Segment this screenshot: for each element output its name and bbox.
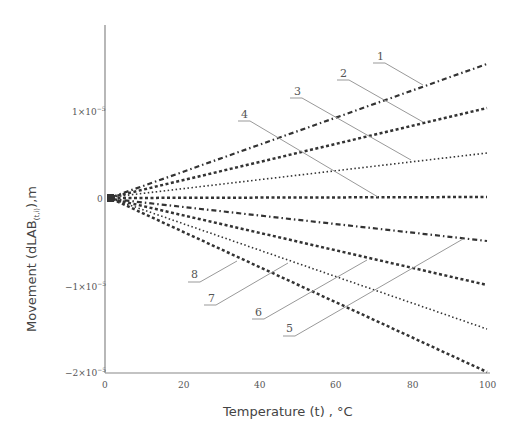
series-6-line [112, 199, 487, 285]
series-label-3: 3 [294, 85, 301, 98]
series-8-line [112, 199, 487, 372]
x-tick-80: 80 [407, 380, 419, 390]
series-label-7: 7 [208, 292, 215, 305]
series-7-line [112, 199, 487, 329]
origin-marker [107, 194, 114, 202]
series-label-6: 6 [255, 306, 262, 319]
series-label-8: 8 [191, 268, 198, 281]
series-label-5: 5 [286, 322, 293, 335]
x-tick-0: 0 [102, 380, 108, 390]
series-5-line [112, 199, 487, 241]
x-tick-40: 40 [254, 380, 266, 390]
y-tick-0: 0 [97, 194, 103, 204]
series-label-1: 1 [377, 50, 384, 63]
y-tick-m2e-5: −2×10−5 [65, 366, 106, 378]
x-axis-title: Temperature (t) , °C [222, 404, 353, 419]
series-1-line [112, 64, 487, 197]
x-tick-20: 20 [178, 380, 190, 390]
series-4-line [112, 197, 487, 198]
series-3-line [112, 153, 487, 197]
y-tick-m1e-5: −1×10−5 [65, 280, 106, 292]
y-tick-1e-5: 1×10−5 [72, 105, 106, 117]
x-tick-60: 60 [330, 380, 342, 390]
series-label-2: 2 [340, 67, 347, 80]
series-2-line [112, 108, 487, 197]
y-axis-title: Movement (dLAB(t,i)),m [24, 186, 41, 332]
chart: 1×10−5 0 −1×10−5 −2×10−5 0 20 40 60 80 1… [0, 0, 525, 433]
leader-lines [188, 63, 463, 336]
x-tick-100: 100 [479, 380, 496, 390]
series-label-4: 4 [241, 108, 248, 121]
